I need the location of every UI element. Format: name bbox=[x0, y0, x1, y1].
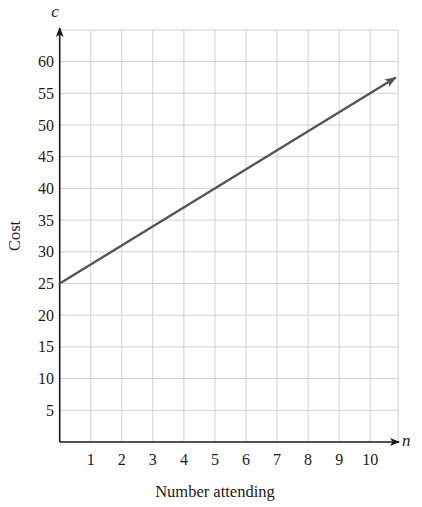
y-tick-label: 5 bbox=[46, 402, 54, 419]
y-tick-label: 10 bbox=[38, 370, 54, 387]
y-tick-label: 35 bbox=[38, 212, 54, 229]
y-tick-label: 15 bbox=[38, 338, 54, 355]
y-axis-title: Cost bbox=[5, 220, 24, 251]
axes bbox=[60, 28, 399, 442]
chart: 1234567891051015202530354045505560ncNumb… bbox=[0, 0, 422, 507]
x-tick-label: 2 bbox=[118, 451, 126, 468]
x-tick-label: 10 bbox=[362, 451, 378, 468]
y-tick-label: 60 bbox=[38, 53, 54, 70]
y-tick-label: 55 bbox=[38, 85, 54, 102]
y-variable-label: c bbox=[51, 2, 59, 21]
x-tick-label: 5 bbox=[211, 451, 219, 468]
y-tick-label: 40 bbox=[38, 180, 54, 197]
data-series bbox=[60, 78, 395, 283]
y-tick-label: 30 bbox=[38, 243, 54, 260]
grid bbox=[60, 30, 398, 442]
y-tick-label: 20 bbox=[38, 307, 54, 324]
x-tick-label: 1 bbox=[87, 451, 95, 468]
x-tick-label: 3 bbox=[149, 451, 157, 468]
x-tick-label: 9 bbox=[335, 451, 343, 468]
y-tick-label: 45 bbox=[38, 148, 54, 165]
x-tick-label: 8 bbox=[304, 451, 312, 468]
x-tick-label: 6 bbox=[242, 451, 250, 468]
x-tick-label: 7 bbox=[273, 451, 281, 468]
x-tick-label: 4 bbox=[180, 451, 188, 468]
y-tick-label: 50 bbox=[38, 117, 54, 134]
x-axis-title: Number attending bbox=[155, 482, 275, 501]
x-variable-label: n bbox=[402, 431, 411, 450]
y-tick-label: 25 bbox=[38, 275, 54, 292]
cost-line bbox=[60, 78, 395, 283]
